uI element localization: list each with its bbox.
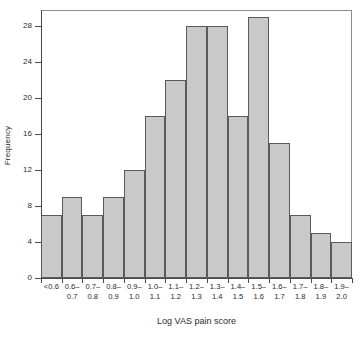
x-axis-title: Log VAS pain score	[41, 316, 352, 326]
y-tick-label: 4	[6, 237, 32, 246]
histogram-bar	[82, 215, 103, 278]
histogram-bar	[207, 26, 228, 278]
y-tick-label: 24	[6, 57, 32, 66]
x-axis-line	[41, 278, 353, 279]
y-tick-label: 0	[6, 273, 32, 282]
histogram-bar	[290, 215, 311, 278]
y-axis-title: Frequency	[0, 0, 16, 290]
y-tick-label: 8	[6, 201, 32, 210]
histogram-bar	[124, 170, 145, 278]
histogram-bar	[103, 197, 124, 278]
histogram-bar	[248, 17, 269, 278]
y-tick-label: 12	[6, 165, 32, 174]
x-tick-label-line2: 2.0	[327, 292, 356, 302]
histogram-bar	[331, 242, 352, 278]
histogram-bar	[269, 143, 290, 278]
bars-layer	[41, 10, 352, 278]
histogram-bar	[311, 233, 332, 278]
histogram-bar	[165, 80, 186, 278]
x-tick-label: 1.9–2.0	[327, 282, 356, 302]
histogram-bar	[62, 197, 83, 278]
y-tick-label: 20	[6, 93, 32, 102]
histogram-chart: Frequency 0481216202428 <0.60.6–0.70.7–0…	[0, 0, 364, 338]
x-tick-label-line1: 1.9–	[327, 282, 356, 292]
y-tick-label: 16	[6, 129, 32, 138]
y-tick-label: 28	[6, 21, 32, 30]
histogram-bar	[41, 215, 62, 278]
histogram-bar	[186, 26, 207, 278]
x-axis-tick-labels: <0.60.6–0.70.7–0.80.8–0.90.9–1.01.0–1.11…	[41, 282, 352, 310]
histogram-bar	[228, 116, 249, 278]
histogram-bar	[145, 116, 166, 278]
